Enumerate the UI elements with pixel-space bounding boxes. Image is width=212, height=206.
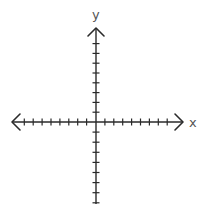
y-axis-label: y: [92, 7, 100, 22]
coordinate-plane: x y: [0, 0, 212, 206]
x-axis-label: x: [189, 115, 197, 130]
